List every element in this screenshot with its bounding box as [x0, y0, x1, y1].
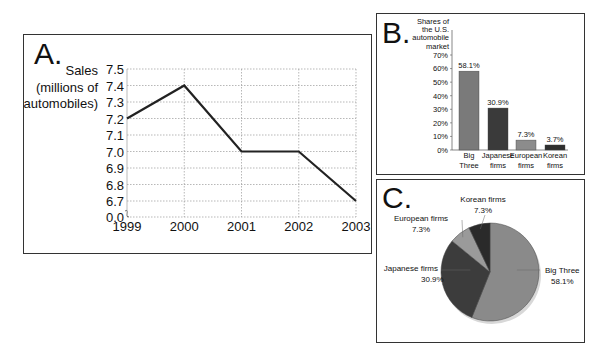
pie-label: European firms7.3%: [394, 214, 463, 237]
svg-text:Korean firms: Korean firms: [460, 195, 505, 204]
svg-text:7.3%: 7.3%: [474, 206, 492, 215]
svg-text:30.9%: 30.9%: [421, 275, 444, 284]
chart-c-svg: Big Three58.1%Japanese firms30.9%Europea…: [0, 0, 609, 354]
svg-text:Big Three: Big Three: [545, 266, 580, 275]
svg-text:Japanese firms: Japanese firms: [384, 264, 438, 273]
svg-text:7.3%: 7.3%: [412, 225, 430, 234]
svg-text:European firms: European firms: [394, 214, 448, 223]
svg-text:58.1%: 58.1%: [551, 277, 574, 286]
